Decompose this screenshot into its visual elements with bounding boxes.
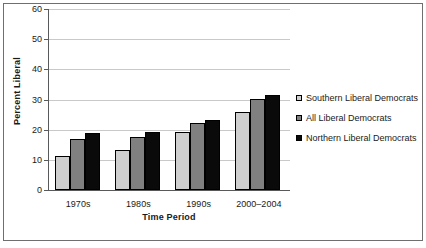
y-axis-tick-label: 50 (32, 34, 42, 44)
plot-area: 0102030405060 1970s1980s1990s2000–2004 (48, 9, 290, 191)
x-axis-tick-label: 1980s (108, 199, 168, 209)
x-axis-tick-label: 1990s (169, 199, 229, 209)
legend-label: Southern Liberal Democrats (306, 93, 418, 103)
y-axis-tick-label: 20 (32, 125, 42, 135)
bar (85, 133, 100, 190)
bar (55, 156, 70, 190)
bar (235, 112, 250, 190)
bar-series-container (49, 9, 290, 190)
x-axis-tick-label: 1970s (48, 199, 108, 209)
bar (250, 99, 265, 190)
bar-group (235, 9, 280, 190)
bar-group (55, 9, 100, 190)
y-axis-tick-mark (44, 69, 48, 70)
y-axis-title: Percent Liberal (12, 36, 22, 146)
legend-swatch-icon (296, 95, 302, 101)
chart-figure: Percent Liberal 0102030405060 1970s1980s… (0, 0, 426, 248)
bar (115, 150, 130, 190)
bar-group (115, 9, 160, 190)
y-axis-tick-mark (44, 130, 48, 131)
legend-item: All Liberal Democrats (296, 110, 422, 126)
y-axis-tick-mark (44, 9, 48, 10)
y-axis-tick-label: 10 (32, 155, 42, 165)
y-axis-tick-label: 40 (32, 64, 42, 74)
y-axis-tick-mark (44, 160, 48, 161)
legend-label: All Liberal Democrats (306, 113, 392, 123)
bar (265, 95, 280, 190)
y-axis-tick-mark (44, 39, 48, 40)
y-axis-tick-mark (44, 190, 48, 191)
y-axis-tick-label: 0 (37, 185, 42, 195)
bar (190, 123, 205, 190)
bar (175, 132, 190, 190)
bar (145, 132, 160, 190)
legend-swatch-icon (296, 115, 302, 121)
bar (205, 120, 220, 190)
x-axis-title: Time Period (48, 212, 290, 222)
legend-label: Northern Liberal Democrats (306, 133, 417, 143)
bar (70, 139, 85, 190)
bar-group (175, 9, 220, 190)
legend-item: Southern Liberal Democrats (296, 90, 422, 106)
y-axis-tick-mark (44, 100, 48, 101)
gridline (49, 190, 290, 191)
legend-swatch-icon (296, 135, 302, 141)
legend-item: Northern Liberal Democrats (296, 130, 422, 146)
chart-legend: Southern Liberal DemocratsAll Liberal De… (296, 90, 422, 150)
x-axis-tick-label: 2000–2004 (229, 199, 289, 209)
y-axis-tick-label: 60 (32, 4, 42, 14)
y-axis-tick-label: 30 (32, 95, 42, 105)
bar (130, 137, 145, 190)
